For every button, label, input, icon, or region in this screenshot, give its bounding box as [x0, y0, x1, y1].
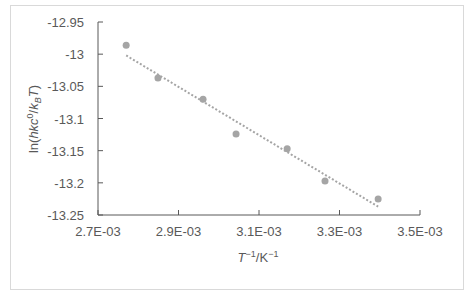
data-point — [375, 195, 382, 202]
x-tick-label: 3.3E-03 — [317, 224, 363, 239]
x-tick-label: 3.5E-03 — [397, 224, 443, 239]
trendline — [126, 55, 378, 206]
data-point — [284, 145, 291, 152]
scatter-chart: -12.95-13-13.05-13.1-13.15-13.2-13.25 2.… — [0, 0, 467, 297]
data-point — [322, 177, 329, 184]
x-axis-title: T−1/K−1 — [238, 249, 279, 265]
y-tick-label: -12.95 — [47, 15, 84, 30]
data-point — [233, 130, 240, 137]
y-tick-label: -13.2 — [54, 176, 84, 191]
x-axis-ticks: 2.7E-032.9E-033.1E-033.3E-033.5E-03 — [75, 210, 443, 239]
y-tick-label: -13.05 — [47, 79, 84, 94]
data-point — [200, 96, 207, 103]
y-tick-label: -13.25 — [47, 208, 84, 223]
y-axis-title: ln(hkc0/kBT) — [25, 85, 43, 153]
data-point — [154, 74, 161, 81]
y-tick-label: -13.15 — [47, 144, 84, 159]
y-axis-ticks: -12.95-13-13.05-13.1-13.15-13.2-13.25 — [47, 15, 103, 223]
data-points — [123, 42, 382, 203]
x-tick-label: 2.9E-03 — [156, 224, 202, 239]
x-tick-label: 2.7E-03 — [75, 224, 121, 239]
data-point — [123, 42, 130, 49]
y-tick-label: -13 — [65, 47, 84, 62]
x-tick-label: 3.1E-03 — [236, 224, 282, 239]
y-tick-label: -13.1 — [54, 112, 84, 127]
